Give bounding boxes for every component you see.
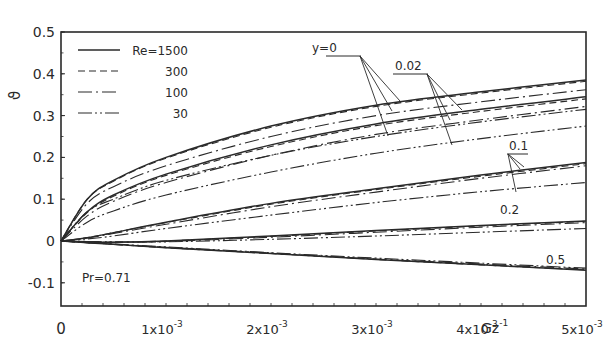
prandtl-annotation: Pr=0.71 — [82, 271, 131, 285]
y-tick-label: -0.1 — [28, 275, 55, 291]
legend: Re=150030010030 — [78, 44, 188, 121]
y-tick-label: 0 — [46, 233, 55, 249]
x-tick-label: 2x10-3 — [246, 319, 288, 337]
legend-label: 30 — [173, 107, 188, 121]
legend-label: Re=1500 — [132, 44, 188, 58]
series-line — [61, 99, 586, 241]
y-tick-label: 0.4 — [33, 66, 55, 82]
series-layer — [61, 80, 586, 270]
series-line — [61, 81, 586, 241]
legend-label: 300 — [165, 65, 188, 79]
x-tick-label: 3x10-3 — [351, 319, 393, 337]
chart: 0.50.40.30.20.10-0.101x10-32x10-33x10-34… — [0, 0, 610, 348]
series-line — [61, 221, 586, 242]
group-label-002: 0.02 — [395, 59, 422, 73]
series-line — [61, 106, 586, 241]
leader-lines — [326, 56, 528, 192]
legend-label: 100 — [165, 86, 188, 100]
x-tick-label: 5x10-3 — [561, 319, 603, 337]
y-tick-label: 0.3 — [33, 108, 55, 124]
group-label-y0: y=0 — [312, 41, 337, 55]
x-tick-label: 0 — [56, 320, 66, 338]
series-line — [61, 241, 586, 269]
y-tick-label: 0.5 — [33, 24, 55, 40]
y-axis-label: ϑ — [6, 91, 24, 100]
x-axis-label: Gz-1 — [481, 318, 508, 336]
group-label-01: 0.1 — [509, 139, 528, 153]
series-line — [61, 228, 586, 242]
group-label-02: 0.2 — [500, 203, 519, 217]
series-line — [61, 223, 586, 243]
series-line — [61, 241, 586, 268]
series-line — [61, 90, 586, 241]
x-tick-label: 1x10-3 — [141, 319, 183, 337]
plot-frame — [61, 32, 586, 306]
y-tick-label: 0.2 — [33, 149, 55, 165]
plot-border — [61, 32, 586, 306]
y-tick-label: 0.1 — [33, 191, 55, 207]
group-label-05: 0.5 — [546, 253, 565, 267]
series-line — [61, 221, 586, 242]
